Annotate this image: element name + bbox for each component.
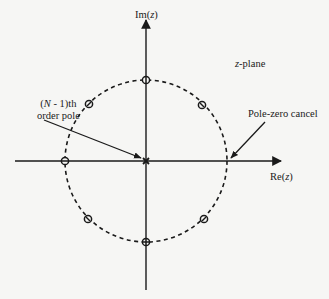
pole-zero-diagram: Im(z) Re(z) z-plane Pole-zero cancel (N … (0, 0, 329, 299)
zero-icon-180 (61, 157, 69, 164)
zero-icon-270 (142, 238, 150, 246)
zero-icon-135 (85, 100, 92, 107)
zero-icon-45 (198, 101, 205, 108)
z-plane-label: z-plane (235, 58, 265, 70)
imaginary-axis-label: Im(z) (135, 9, 158, 21)
pole-zero-plot (0, 0, 329, 299)
real-axis-label: Re(z) (270, 171, 293, 183)
cancel-pointer-arrow (231, 122, 265, 158)
zero-icon-225 (84, 215, 91, 222)
pole-order-line-1: (N - 1)th (37, 98, 80, 110)
pole-order-line-2: order pole (37, 110, 80, 122)
zero-icon-90 (142, 76, 149, 84)
pole-pointer-arrow (44, 120, 141, 158)
pole-zero-cancel-label: Pole-zero cancel (248, 108, 318, 120)
pole-order-label: (N - 1)th order pole (37, 98, 80, 122)
zero-icon-315 (200, 215, 207, 222)
